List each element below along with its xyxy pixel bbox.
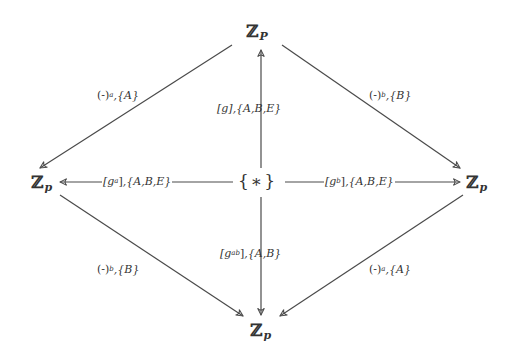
node-right-symbol: ℤ xyxy=(466,172,478,192)
node-left: ℤp xyxy=(31,174,52,191)
node-left-subscript: p xyxy=(44,181,52,194)
node-right: ℤp xyxy=(466,174,487,191)
arrow-top-to-left xyxy=(40,45,232,168)
node-center-label: {∗} xyxy=(238,171,277,191)
node-top: ℤP xyxy=(246,23,268,40)
arrow-right-to-bottom xyxy=(280,195,463,316)
label-left-to-bottom: (-)b,{B} xyxy=(96,264,140,275)
commutative-diagram: ℤP ℤp {∗} ℤp ℤp (-)a,{A} (-)b,{B} [g],{A… xyxy=(0,0,514,358)
arrow-top-to-right xyxy=(282,45,460,168)
label-center-to-bottom: [gab],{A,B} xyxy=(219,248,282,259)
node-bottom-subscript: p xyxy=(263,329,271,342)
node-left-symbol: ℤ xyxy=(31,172,43,192)
arrow-left-to-bottom xyxy=(60,195,243,316)
node-center: {∗} xyxy=(238,173,277,190)
node-top-subscript: P xyxy=(259,30,267,43)
node-bottom: ℤp xyxy=(250,322,271,339)
label-right-to-bottom: (-)a,{A} xyxy=(368,264,412,275)
node-top-symbol: ℤ xyxy=(246,21,258,41)
node-bottom-symbol: ℤ xyxy=(250,320,262,340)
label-center-to-right: [gb],{A,B,E} xyxy=(324,176,395,187)
node-right-subscript: p xyxy=(479,181,487,194)
label-top-to-left: (-)a,{A} xyxy=(96,90,140,101)
label-center-to-left: [ga],{A,B,E} xyxy=(102,176,172,187)
label-top-to-right: (-)b,{B} xyxy=(368,90,412,101)
label-center-to-top: [g],{A,B,E} xyxy=(216,103,282,114)
